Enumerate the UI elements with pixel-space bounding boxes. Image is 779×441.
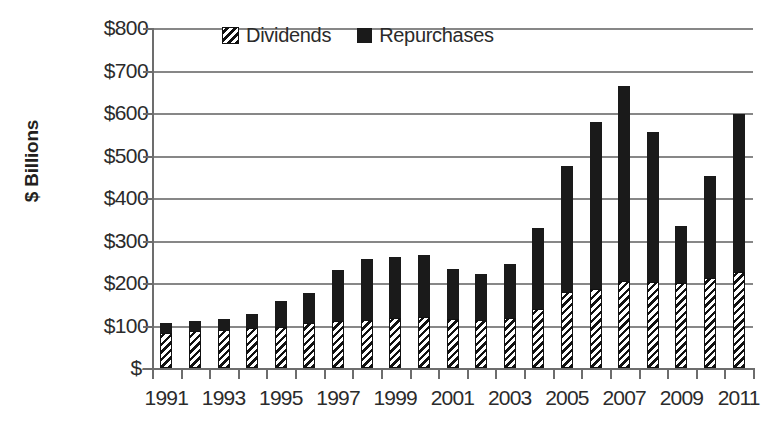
bar-segment-repurchases [618,86,630,281]
x-axis-tick-mark [352,368,354,379]
legend-label-dividends: Dividends [246,25,331,45]
bar-group [733,28,745,368]
x-axis-tick-label: 2011 [707,386,771,410]
y-axis-tick-label: $400 [48,187,148,208]
y-axis-tick-mark [143,156,154,158]
bar-group [590,28,602,368]
x-axis-tick-mark [724,368,726,379]
bar-group [389,28,401,368]
bar-group [332,28,344,368]
bar-segment-repurchases [561,166,573,292]
y-axis-tick-mark [143,113,154,115]
x-axis-tick-label: 2005 [535,386,599,410]
bar-segment-repurchases [704,176,716,278]
x-axis-tick-mark [266,368,268,379]
bar-segment-dividends [532,309,544,369]
bar-group [303,28,315,368]
x-axis-tick-mark [324,368,326,379]
x-axis-tick-mark [209,368,211,379]
x-axis-tick-mark [524,368,526,379]
bar-segment-dividends [160,333,172,368]
y-axis-tick-mark [143,28,154,30]
bar-segment-repurchases [475,274,487,321]
bar-group [532,28,544,368]
bar-segment-dividends [275,327,287,368]
bar-group [475,28,487,368]
legend-item-dividends: Dividends [222,25,331,45]
y-axis-tick-label: $200 [48,272,148,293]
bar-segment-repurchases [389,257,401,318]
x-axis-tick-mark [610,368,612,379]
bar-segment-dividends [704,278,716,368]
y-axis-tick-mark [143,326,154,328]
legend-item-repurchases: Repurchases [357,25,494,45]
bar-segment-repurchases [303,293,315,324]
bar-segment-repurchases [332,270,344,321]
y-axis-tick-mark [143,71,154,73]
y-axis-tick-label: $700 [48,60,148,81]
x-axis-tick-mark [295,368,297,379]
bar-segment-repurchases [246,314,258,328]
x-axis-tick-label: 1997 [306,386,370,410]
x-axis-tick-mark [495,368,497,379]
bar-group [275,28,287,368]
x-axis-tick-mark [581,368,583,379]
y-axis-tick-mark [143,241,154,243]
x-axis-tick-mark [639,368,641,379]
y-axis-tick-label: $500 [48,145,148,166]
x-axis-tick-label: 2001 [421,386,485,410]
x-axis-tick-label: 1995 [249,386,313,410]
x-axis-tick-mark [667,368,669,379]
bar-segment-repurchases [675,226,687,283]
bar-segment-dividends [475,320,487,368]
bar-group [361,28,373,368]
bar-group [218,28,230,368]
bar-group [418,28,430,368]
bar-segment-repurchases [275,301,287,327]
x-axis-tick-mark [753,368,755,379]
plot-area [152,28,753,368]
bar-segment-dividends [189,331,201,368]
y-axis-tick-label: $100 [48,315,148,336]
bar-segment-dividends [733,272,745,368]
bar-segment-repurchases [504,264,516,318]
y-axis-tick-label: $300 [48,230,148,251]
bar-segment-dividends [675,283,687,368]
y-axis-tick-label: $800 [48,17,148,38]
bar-segment-repurchases [160,323,172,333]
x-axis-tick-label: 1991 [134,386,198,410]
bar-group [447,28,459,368]
bar-segment-dividends [303,323,315,368]
x-axis-tick-label: 1999 [363,386,427,410]
bar-segment-repurchases [733,114,745,272]
bar-segment-repurchases [189,321,201,332]
bar-group [246,28,258,368]
bar-group [504,28,516,368]
stacked-bar-chart: $ Billions $-$100$200$300$400$500$600$70… [0,0,779,441]
bar-segment-repurchases [447,269,459,319]
bar-group [647,28,659,368]
y-axis-tick-label: $- [48,357,148,378]
x-axis-tick-mark [438,368,440,379]
bar-segment-dividends [361,320,373,368]
chart-legend: Dividends Repurchases [222,22,494,48]
bar-segment-repurchases [532,228,544,309]
legend-label-repurchases: Repurchases [379,25,494,45]
x-axis-tick-mark [410,368,412,379]
y-axis-tick-mark [143,198,154,200]
x-axis-tick-mark [696,368,698,379]
x-axis-tick-mark [381,368,383,379]
x-axis-tick-mark [553,368,555,379]
y-axis-tick-label: $600 [48,102,148,123]
x-axis-tick-label: 2007 [592,386,656,410]
bar-segment-dividends [561,292,573,369]
bar-group [189,28,201,368]
bar-segment-dividends [389,318,401,368]
bar-segment-dividends [418,317,430,368]
x-axis-tick-label: 2009 [649,386,713,410]
bar-group [704,28,716,368]
y-axis-tick-mark [143,283,154,285]
solid-swatch-icon [357,28,372,43]
x-axis-tick-labels: 1991199319951997199920012003200520072009… [0,386,779,426]
bar-segment-dividends [447,319,459,368]
